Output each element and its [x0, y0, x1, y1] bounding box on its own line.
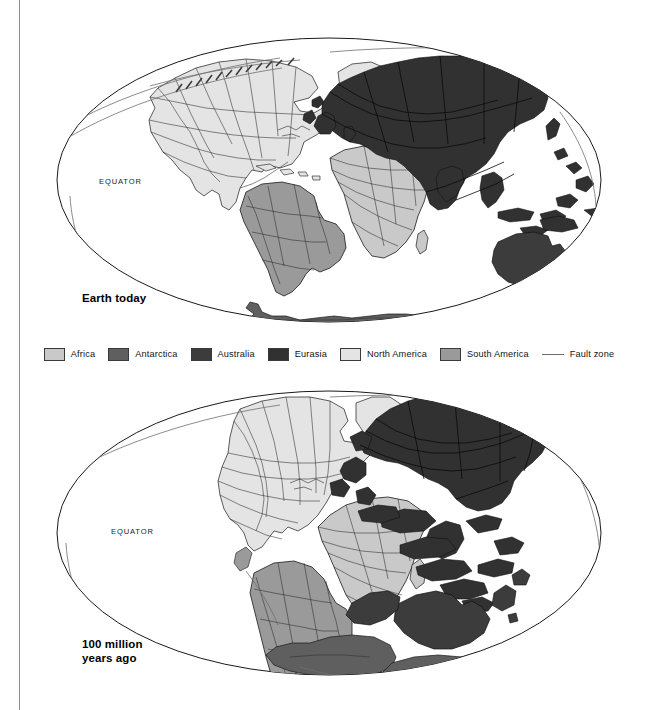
- legend-label-fault-zone: Fault zone: [570, 349, 614, 359]
- equator-label-ancient: EQUATOR: [111, 527, 154, 536]
- legend-swatch-antarctica: [108, 348, 129, 361]
- legend-label-australia: Australia: [218, 349, 255, 359]
- legend-item-australia: Australia: [191, 348, 255, 361]
- legend-item-eurasia: Eurasia: [268, 348, 327, 361]
- legend-swatch-eurasia: [268, 348, 289, 361]
- legend-swatch-africa: [44, 348, 65, 361]
- legend-item-north-america: North America: [340, 348, 427, 361]
- caption-earth-today: Earth today: [82, 292, 146, 306]
- legend-item-fault-zone: Fault zone: [542, 349, 614, 359]
- legend-item-antarctica: Antarctica: [108, 348, 177, 361]
- legend-label-south-america: South America: [467, 349, 529, 359]
- legend-swatch-north-america: [340, 348, 361, 361]
- legend-label-eurasia: Eurasia: [295, 349, 327, 359]
- legend: Africa Antarctica Australia Eurasia Nort…: [0, 344, 658, 364]
- legend-item-south-america: South America: [440, 348, 529, 361]
- legend-label-africa: Africa: [71, 349, 95, 359]
- legend-label-north-america: North America: [367, 349, 427, 359]
- legend-item-africa: Africa: [44, 348, 95, 361]
- legend-label-antarctica: Antarctica: [135, 349, 177, 359]
- plate-tectonics-figure: EQUATOR Earth today Africa Antarctica Au…: [0, 0, 658, 710]
- legend-swatch-australia: [191, 348, 212, 361]
- legend-swatch-south-america: [440, 348, 461, 361]
- equator-label-today: EQUATOR: [99, 177, 142, 186]
- caption-100-million-years-ago: 100 million years ago: [82, 638, 143, 665]
- legend-line-fault-zone: [542, 354, 564, 355]
